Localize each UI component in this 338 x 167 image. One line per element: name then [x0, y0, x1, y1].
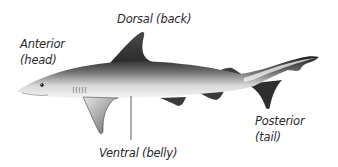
pectoral-fin [83, 97, 118, 134]
label-dorsal-text: Dorsal (back) [117, 11, 191, 27]
label-anterior-description: (head) [20, 52, 65, 68]
label-anterior: Anterior (head) [20, 36, 65, 68]
dorsal-fin [110, 32, 156, 63]
label-dorsal: Dorsal (back) [117, 11, 191, 27]
label-posterior-description: (tail) [255, 129, 304, 145]
shark-anatomy-diagram: Anterior (head) Dorsal (back) Posterior … [0, 0, 338, 167]
label-ventral-text: Ventral (belly) [99, 145, 177, 161]
pelvic-fin [160, 97, 186, 106]
label-ventral: Ventral (belly) [99, 145, 177, 161]
eye [40, 83, 44, 87]
label-posterior-term: Posterior [255, 113, 304, 129]
label-posterior: Posterior (tail) [255, 113, 304, 145]
label-anterior-term: Anterior [20, 36, 65, 52]
eye-highlight [41, 84, 42, 85]
